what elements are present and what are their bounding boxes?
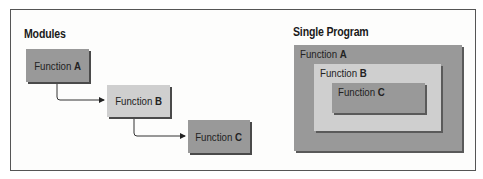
nested-function-a-label: Function A xyxy=(300,48,347,60)
function-c-label: Function C xyxy=(196,131,243,143)
nested-function-b-label: Function B xyxy=(320,67,367,79)
module-function-a: Function A xyxy=(26,49,89,82)
arrow-a-to-b xyxy=(57,82,104,100)
nested-function-c-label: Function C xyxy=(338,86,385,98)
program-function-c: Function C xyxy=(332,83,425,113)
arrow-b-to-c xyxy=(134,117,185,136)
module-function-c: Function C xyxy=(188,120,250,153)
function-a-label: Function A xyxy=(34,60,81,72)
module-function-b: Function B xyxy=(107,85,170,117)
single-program-title: Single Program xyxy=(293,25,369,39)
function-b-label: Function B xyxy=(115,95,162,107)
